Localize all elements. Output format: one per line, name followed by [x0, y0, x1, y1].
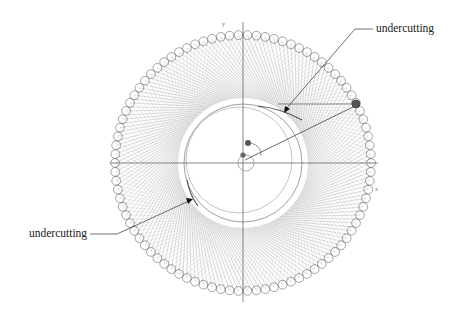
- center-point: [240, 152, 245, 157]
- annotation-undercutting-bottom: undercutting: [29, 228, 87, 240]
- highlighted-roller: [352, 100, 360, 108]
- cycloid-gear-diagram: [0, 0, 464, 319]
- x-axis-label: x: [375, 186, 378, 192]
- eccentric-point: [245, 140, 251, 146]
- y-axis-label: y: [222, 21, 225, 27]
- annotation-undercutting-top: undercutting: [376, 23, 434, 35]
